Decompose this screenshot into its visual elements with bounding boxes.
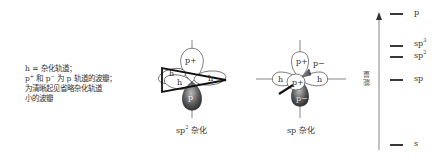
sp-label-p-minus-bottom: p− — [296, 94, 308, 103]
sp2-orbital-diagram: p+ p h h h — [157, 40, 227, 118]
sp2-label-p-minus: p — [188, 93, 193, 102]
level-label-sp3: sp3 — [414, 39, 426, 48]
energy-arrow-head — [376, 12, 382, 20]
energy-axis-label: 能量 — [362, 70, 372, 86]
level-label-s: s — [414, 139, 418, 148]
sp-label-p-plus-front: p+ — [292, 78, 304, 87]
sp2-label-h-1: h — [169, 69, 174, 78]
sp-orbital-diagram: p+ p− h h p+ p− — [256, 40, 346, 118]
sp-label-h-left: h — [278, 75, 283, 84]
level-label-sp2: sp2 — [414, 51, 426, 60]
sp2-caption: sp2 杂化 — [176, 124, 207, 135]
energy-level-diagram — [376, 12, 403, 150]
sp-wedge-axis — [279, 85, 293, 94]
sp-caption: sp 杂化 — [287, 124, 315, 135]
orbital-diagrams: p+ p h h h p+ p− h h p+ p− — [0, 0, 442, 161]
sp2-label-h-3: h — [208, 74, 213, 83]
sp2-label-p-plus: p+ — [185, 56, 197, 65]
sp-label-p-minus-back: p− — [313, 59, 325, 68]
sp-label-h-right: h — [317, 75, 322, 84]
level-label-p: p — [414, 8, 419, 17]
level-label-sp: sp — [414, 74, 423, 83]
sp-label-p-plus-top: p+ — [296, 57, 308, 66]
sp2-label-h-2: h — [177, 78, 182, 87]
